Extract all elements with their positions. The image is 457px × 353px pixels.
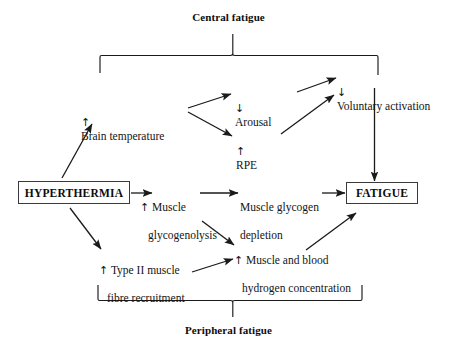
node-voluntary-activation-label: Voluntary activation	[337, 100, 430, 112]
node-type-ii-fibre-line1: Type II muscle	[111, 264, 180, 276]
diagram-canvas: Central fatigue Peripheral fatigue HYPER…	[0, 0, 457, 353]
central-fatigue-label: Central fatigue	[0, 11, 457, 23]
up-arrow-icon: ↑	[81, 116, 90, 129]
diagram-connectors	[0, 0, 457, 353]
node-arousal: ↓ Arousal	[235, 87, 271, 129]
up-arrow-icon: ↑	[234, 254, 243, 267]
edge-rpe-voluntary	[281, 95, 334, 134]
edge-arousal-voluntary	[297, 78, 336, 92]
node-muscle-glycogenolysis-line2: glycogenolysis	[140, 228, 217, 242]
node-hydrogen-concentration-line1: Muscle and blood	[246, 254, 328, 266]
node-arousal-label: Arousal	[235, 116, 271, 128]
up-arrow-icon: ↑	[236, 145, 245, 158]
node-type-ii-fibre-recruitment: ↑ Type II muscle fibre recruitment	[99, 249, 185, 319]
fatigue-box: FATIGUE	[346, 182, 418, 204]
node-brain-temperature-label: Brain temperature	[81, 130, 164, 142]
peripheral-fatigue-label: Peripheral fatigue	[0, 324, 457, 336]
node-hydrogen-concentration: ↑ Muscle and blood hydrogen concentratio…	[234, 239, 351, 309]
node-type-ii-fibre-line2: fibre recruitment	[99, 291, 185, 305]
node-brain-temperature: ↑ Brain temperature	[81, 101, 164, 143]
down-arrow-icon: ↓	[235, 102, 244, 115]
edge-braintemp-arousal	[188, 94, 231, 108]
up-arrow-icon: ↑	[99, 264, 108, 277]
up-arrow-icon: ↑	[140, 201, 149, 214]
node-hydrogen-concentration-line2: hydrogen concentration	[234, 281, 351, 295]
edge-typeii-hydrogen	[192, 259, 233, 272]
hyperthermia-box: HYPERTHERMIA	[18, 181, 130, 204]
down-arrow-icon: ↓	[337, 86, 346, 99]
node-rpe: ↑ RPE	[236, 130, 257, 172]
node-muscle-glycogenolysis-line1: Muscle	[152, 201, 186, 213]
edge-hyperthermia-typeii	[70, 208, 101, 249]
node-voluntary-activation: ↓ Voluntary activation	[337, 71, 430, 113]
edge-braintemp-rpe	[188, 112, 232, 136]
node-rpe-label: RPE	[236, 159, 257, 171]
node-muscle-glycogen-depletion-line1: Muscle glycogen	[240, 200, 319, 214]
node-muscle-glycogenolysis: ↑ Muscle glycogenolysis	[140, 186, 217, 256]
